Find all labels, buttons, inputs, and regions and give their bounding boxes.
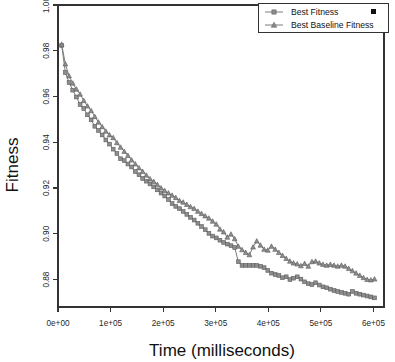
fitness-convergence-chart: 0e+001e+052e+053e+054e+055e+056e+05 1.00… bbox=[0, 0, 395, 362]
data-point-marker bbox=[303, 280, 307, 284]
data-point-marker bbox=[207, 231, 211, 235]
data-point-marker bbox=[299, 277, 303, 281]
data-point-marker bbox=[306, 282, 310, 286]
data-point-marker bbox=[67, 81, 71, 85]
data-point-marker bbox=[247, 263, 251, 267]
data-point-marker bbox=[218, 238, 222, 242]
series-triangle bbox=[59, 42, 377, 282]
data-point-marker bbox=[229, 244, 233, 248]
data-point-marker bbox=[93, 124, 97, 128]
chart-legend: Best FitnessBest Baseline Fitness bbox=[258, 3, 388, 32]
y-tick-label: 0.94 bbox=[42, 134, 51, 150]
data-point-marker bbox=[214, 236, 218, 240]
data-point-marker bbox=[354, 291, 358, 295]
data-point-marker bbox=[373, 296, 377, 300]
data-point-marker bbox=[281, 276, 285, 280]
data-point-marker bbox=[254, 239, 259, 244]
series-layer bbox=[59, 42, 377, 300]
data-point-marker bbox=[358, 292, 362, 296]
data-point-marker bbox=[362, 293, 366, 297]
data-point-marker bbox=[251, 263, 255, 267]
data-point-marker bbox=[328, 262, 333, 267]
legend-marker-square bbox=[272, 10, 276, 14]
series-line bbox=[62, 46, 375, 298]
data-point-marker bbox=[317, 283, 321, 287]
x-tick-label: 0e+00 bbox=[47, 319, 70, 328]
data-point-marker bbox=[240, 263, 244, 267]
data-point-marker bbox=[266, 268, 270, 272]
data-point-marker bbox=[178, 207, 182, 211]
data-point-marker bbox=[185, 212, 189, 216]
data-point-marker bbox=[372, 277, 377, 282]
chart-svg: 0e+001e+052e+053e+054e+055e+056e+05 1.00… bbox=[0, 0, 395, 362]
data-point-marker bbox=[233, 246, 237, 250]
series-line bbox=[62, 44, 375, 280]
y-axis-title: Fitness bbox=[3, 138, 22, 193]
x-axis-title: Time (milliseconds) bbox=[149, 341, 295, 360]
y-tick-label: 0.98 bbox=[42, 42, 51, 58]
x-tick-label: 3e+05 bbox=[204, 319, 227, 328]
data-point-marker bbox=[273, 273, 277, 277]
data-point-marker bbox=[122, 159, 126, 163]
y-axis-ticks: 1.000.980.960.940.920.900.88 bbox=[42, 0, 58, 288]
legend-label: Best Baseline Fitness bbox=[291, 20, 374, 30]
data-point-marker bbox=[269, 244, 274, 249]
data-point-marker bbox=[277, 274, 281, 278]
data-point-marker bbox=[365, 294, 369, 298]
data-point-marker bbox=[181, 209, 185, 213]
data-point-marker bbox=[284, 275, 288, 279]
data-point-marker bbox=[321, 285, 325, 289]
data-point-marker bbox=[119, 157, 123, 161]
data-point-marker bbox=[369, 295, 373, 299]
data-point-marker bbox=[126, 162, 130, 166]
data-point-marker bbox=[196, 221, 200, 225]
data-point-marker bbox=[81, 98, 86, 103]
data-point-marker bbox=[225, 242, 229, 246]
data-point-marker bbox=[288, 278, 292, 282]
data-point-marker bbox=[111, 147, 115, 151]
data-point-marker bbox=[78, 103, 82, 107]
data-point-marker bbox=[295, 275, 299, 279]
x-axis-ticks: 0e+001e+052e+053e+054e+055e+056e+05 bbox=[47, 307, 386, 328]
data-point-marker bbox=[211, 234, 215, 238]
data-point-marker bbox=[262, 266, 266, 270]
data-point-marker bbox=[236, 260, 240, 264]
data-point-marker bbox=[347, 292, 351, 296]
data-point-marker bbox=[86, 113, 90, 117]
data-point-marker bbox=[314, 281, 318, 285]
data-point-marker bbox=[200, 225, 204, 229]
y-tick-label: 1.00 bbox=[42, 0, 51, 13]
data-point-marker bbox=[63, 71, 67, 75]
data-point-marker bbox=[328, 287, 332, 291]
series-square bbox=[60, 44, 377, 300]
data-point-marker bbox=[170, 202, 174, 206]
data-point-marker bbox=[167, 198, 171, 202]
data-point-marker bbox=[336, 290, 340, 294]
data-point-marker bbox=[255, 263, 259, 267]
data-point-marker bbox=[259, 264, 263, 268]
data-point-marker bbox=[244, 263, 248, 267]
data-point-marker bbox=[325, 286, 329, 290]
data-point-marker bbox=[292, 276, 296, 280]
data-point-marker bbox=[229, 232, 234, 237]
data-point-marker bbox=[339, 263, 344, 268]
data-point-marker bbox=[332, 289, 336, 293]
x-tick-label: 6e+05 bbox=[362, 319, 385, 328]
y-tick-label: 0.96 bbox=[42, 88, 51, 104]
data-point-marker bbox=[189, 215, 193, 219]
data-point-marker bbox=[174, 204, 178, 208]
data-point-marker bbox=[340, 290, 344, 294]
x-tick-label: 1e+05 bbox=[99, 319, 122, 328]
data-point-marker bbox=[133, 170, 137, 174]
data-point-marker bbox=[351, 290, 355, 294]
x-tick-label: 4e+05 bbox=[257, 319, 280, 328]
data-point-marker bbox=[310, 283, 314, 287]
data-point-marker bbox=[270, 271, 274, 275]
y-tick-label: 0.88 bbox=[42, 271, 51, 287]
y-tick-label: 0.92 bbox=[42, 180, 51, 196]
x-tick-label: 2e+05 bbox=[152, 319, 175, 328]
plot-frame bbox=[58, 5, 384, 307]
data-point-marker bbox=[192, 218, 196, 222]
data-point-marker bbox=[203, 228, 207, 232]
data-point-marker bbox=[115, 152, 119, 156]
